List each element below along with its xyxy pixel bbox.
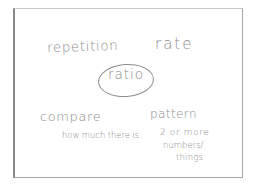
note-how-much-there-is: how much there is (62, 131, 139, 140)
word-rate: rate (155, 37, 193, 52)
note-line-2: numbers/ (163, 141, 203, 150)
note-line-1: 2 or more (160, 128, 209, 137)
word-repetition: repetition (47, 39, 119, 55)
word-pattern: pattern (150, 108, 197, 120)
word-ratio-center: ratio (108, 68, 144, 82)
note-line-3: things (176, 153, 203, 162)
word-compare: compare (40, 110, 101, 123)
